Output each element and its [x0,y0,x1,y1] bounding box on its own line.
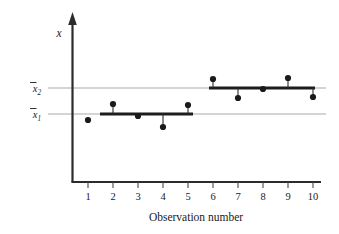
y-axis-label: x [55,27,62,39]
x-tick-label: 2 [110,191,115,202]
x-tick-label: 1 [85,191,90,202]
x-tick-label: 7 [235,191,240,202]
x-tick-label: 10 [308,191,319,202]
data-point [160,124,166,130]
data-point [85,117,91,123]
x-tick-label: 3 [135,191,140,202]
data-point [285,75,291,81]
x-tick-label: 5 [185,191,190,202]
data-point [185,102,191,108]
x-tick-label: 9 [285,191,290,202]
data-point [260,86,266,92]
data-point [235,95,241,101]
scatter-chart-svg: 1 2 3 4 5 6 7 8 9 10 Observation number … [0,0,339,234]
ref-label-subscript: 2 [37,89,41,97]
x-tick-label: 4 [160,191,166,202]
data-point [210,76,216,82]
ref-label-subscript: 1 [37,115,41,123]
x-axis-title: Observation number [149,211,243,223]
chart-figure: 1 2 3 4 5 6 7 8 9 10 Observation number … [0,0,339,234]
x-tick-label: 6 [210,191,215,202]
data-point [310,94,316,100]
x-tick-label: 8 [260,191,265,202]
data-point [135,113,141,119]
data-point [110,101,116,107]
